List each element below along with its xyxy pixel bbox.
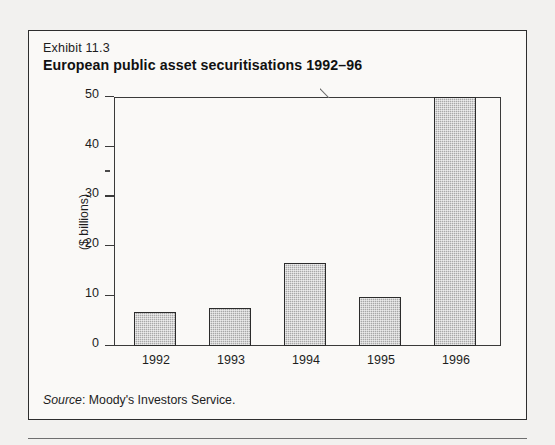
exhibit-number-label: Exhibit 11.3 bbox=[43, 41, 110, 55]
bar-1995: 1995 bbox=[359, 297, 401, 346]
x-axis-tick-label: 1995 bbox=[351, 353, 411, 367]
y-axis-tick-label: 40 bbox=[85, 137, 99, 151]
y-axis-tick: 30 bbox=[105, 195, 114, 196]
scan-artifact-mark bbox=[320, 88, 331, 98]
x-axis-tick-label: 1996 bbox=[426, 353, 486, 367]
y-axis-tick: 50 bbox=[105, 96, 114, 97]
y-axis-tick: 20 bbox=[105, 245, 114, 246]
bar-1993: 1993 bbox=[209, 308, 251, 346]
y-axis-tick-label: 10 bbox=[85, 286, 99, 300]
y-axis-minor-mark bbox=[105, 170, 110, 172]
y-axis-tick: 0 bbox=[105, 345, 114, 346]
x-axis-tick-label: 1993 bbox=[201, 353, 261, 367]
x-axis-tick-label: 1994 bbox=[276, 353, 336, 367]
y-axis-tick-label: 50 bbox=[85, 87, 99, 101]
exhibit-title: European public asset securitisations 19… bbox=[43, 57, 362, 73]
y-axis-tick: 10 bbox=[105, 295, 114, 296]
source-note-text: : Moody's Investors Service. bbox=[82, 393, 235, 407]
source-note: Source: Moody's Investors Service. bbox=[43, 393, 235, 407]
y-axis-tick-label: 0 bbox=[92, 336, 99, 350]
bar-chart-plot-area: ($ billions) 0 10 20 30 40 50 1992 1993 … bbox=[114, 97, 501, 346]
y-axis-tick-label: 20 bbox=[85, 236, 99, 250]
exhibit-panel: Exhibit 11.3 European public asset secur… bbox=[28, 30, 527, 420]
bar-1994: 1994 bbox=[284, 263, 326, 346]
bar-1992: 1992 bbox=[134, 312, 176, 346]
y-axis-tick: 40 bbox=[105, 146, 114, 147]
source-note-prefix: Source bbox=[43, 393, 82, 407]
bottom-divider-rule bbox=[28, 438, 527, 439]
bar-1996: 1996 bbox=[434, 97, 476, 346]
x-axis-tick-label: 1992 bbox=[126, 353, 186, 367]
y-axis-tick-label: 30 bbox=[85, 186, 99, 200]
